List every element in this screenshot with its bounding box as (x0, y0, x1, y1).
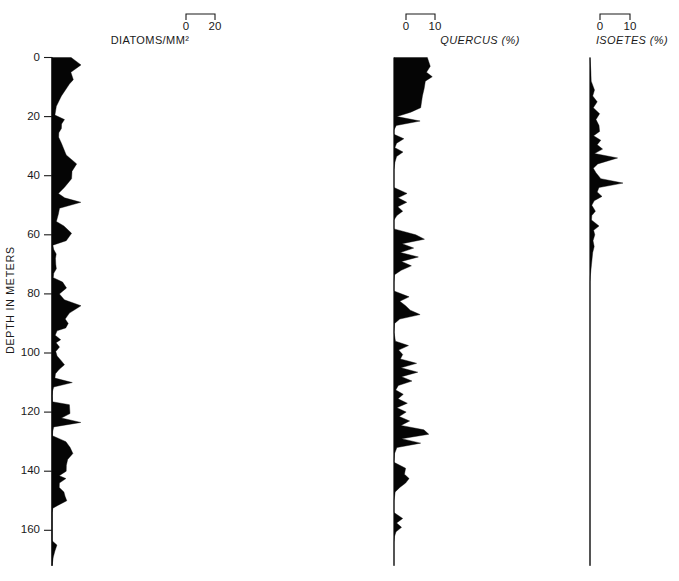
depth-tick-label: 160 (21, 523, 40, 535)
depth-tick-label: 140 (21, 464, 40, 476)
curve-isoetes (590, 58, 623, 566)
scale-tick-label-diatoms-0: 0 (183, 20, 189, 32)
depth-tick-label: 80 (27, 287, 40, 299)
scale-tick-label-isoetes-0: 0 (597, 20, 603, 32)
depth-axis-title: DEPTH IN METERS (4, 246, 16, 354)
curve-diatoms (52, 58, 81, 566)
depth-tick-label: 60 (27, 228, 40, 240)
taxon-label-isoetes: ISOETES (%) (596, 34, 668, 46)
depth-tick-label: 120 (21, 405, 40, 417)
taxon-panels: 020DIATOMS/MM²010QUERCUS (%)010ISOETES (… (52, 14, 668, 566)
depth-axis: 020406080100120140160 (21, 51, 52, 566)
diagram-canvas: 020406080100120140160 020DIATOMS/MM²010Q… (0, 0, 679, 581)
scale-tick-label-quercus-1: 10 (429, 20, 442, 32)
panel-diatoms: 020DIATOMS/MM² (52, 14, 221, 566)
depth-tick-label: 100 (21, 346, 40, 358)
depth-tick-label: 20 (27, 110, 40, 122)
curve-quercus (394, 58, 432, 566)
scale-tick-label-diatoms-1: 20 (209, 20, 222, 32)
panel-isoetes: 010ISOETES (%) (590, 14, 668, 566)
stratigraphic-diagram: 020406080100120140160 020DIATOMS/MM²010Q… (0, 0, 679, 581)
depth-tick-label: 0 (34, 51, 40, 63)
panel-quercus: 010QUERCUS (%) (394, 14, 520, 566)
taxon-label-diatoms: DIATOMS/MM² (111, 34, 190, 46)
taxon-label-quercus: QUERCUS (%) (440, 34, 520, 46)
depth-tick-label: 40 (27, 169, 40, 181)
scale-tick-label-quercus-0: 0 (403, 20, 409, 32)
scale-tick-label-isoetes-1: 10 (624, 20, 637, 32)
